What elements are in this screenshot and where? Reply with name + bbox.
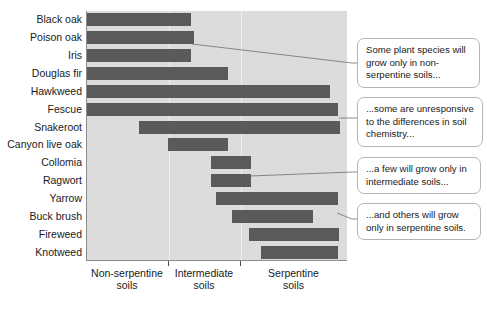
y-axis-label: Yarrow — [2, 192, 82, 205]
callout-unresponsive: ...some are unresponsive to the differen… — [357, 97, 483, 147]
bar — [249, 228, 339, 241]
bar — [216, 192, 337, 205]
bar — [87, 13, 191, 26]
x-axis-label-non-serpentine-line1: Non-serpentine — [86, 267, 168, 279]
y-axis-label: Buck brush — [2, 210, 82, 223]
callout-non-serpentine: Some plant species will grow only in non… — [357, 38, 480, 88]
y-axis-label: Ragwort — [2, 174, 82, 187]
x-tick-mark-2 — [240, 261, 241, 266]
plot-area — [86, 11, 347, 261]
x-axis-label-intermediate: Intermediate soils — [168, 267, 240, 291]
x-axis-label-serpentine-line1: Serpentine — [240, 267, 347, 279]
x-axis-label-intermediate-line1: Intermediate — [168, 267, 240, 279]
x-axis-label-intermediate-line2: soils — [168, 279, 240, 291]
y-axis-label: Snakeroot — [2, 121, 82, 134]
x-axis-label-serpentine-line2: soils — [240, 279, 347, 291]
y-axis-labels: Black oakPoison oakIrisDouglas firHawkwe… — [0, 11, 82, 261]
y-axis-label: Fescue — [2, 103, 82, 116]
y-axis-label: Poison oak — [2, 31, 82, 44]
y-axis-label: Iris — [2, 49, 82, 62]
callout-intermediate: ...a few will grow only in intermediate … — [357, 157, 481, 194]
callout-serpentine: ...and others will grow only in serpenti… — [357, 203, 481, 240]
bar — [87, 85, 330, 98]
y-axis-label: Fireweed — [2, 228, 82, 241]
bar — [87, 31, 194, 44]
bar — [168, 138, 228, 151]
bar — [87, 103, 338, 116]
chart-figure: Black oakPoison oakIrisDouglas firHawkwe… — [0, 0, 487, 319]
x-axis-label-serpentine: Serpentine soils — [240, 267, 347, 291]
bar — [232, 210, 313, 223]
y-axis-label: Knotweed — [2, 246, 82, 259]
x-axis-label-non-serpentine-line2: soils — [86, 279, 168, 291]
bar — [211, 156, 251, 169]
bar — [211, 174, 251, 187]
y-axis-label: Black oak — [2, 13, 82, 26]
y-axis-label: Canyon live oak — [2, 138, 82, 151]
x-tick-mark-1 — [168, 261, 169, 266]
x-axis-label-non-serpentine: Non-serpentine soils — [86, 267, 168, 291]
bar — [261, 246, 338, 259]
bar — [87, 49, 191, 62]
y-axis-label: Douglas fir — [2, 67, 82, 80]
y-axis-label: Collomia — [2, 156, 82, 169]
y-axis-label: Hawkweed — [2, 85, 82, 98]
bar — [139, 121, 340, 134]
bar — [87, 67, 228, 80]
